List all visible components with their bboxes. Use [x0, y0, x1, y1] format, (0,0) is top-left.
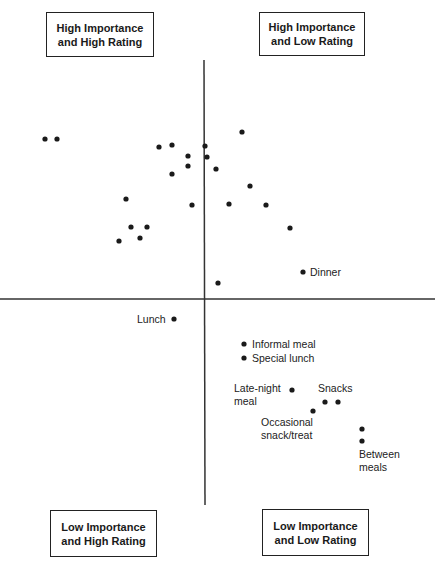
data-points [42, 129, 364, 443]
data-point [213, 166, 218, 171]
label-late-night: Late-night [234, 382, 281, 394]
data-point [189, 202, 194, 207]
data-point [204, 154, 209, 159]
data-point [169, 171, 174, 176]
data-point [42, 136, 47, 141]
label-snack-treat: snack/treat [261, 429, 312, 441]
data-point [202, 143, 207, 148]
label-lunch: Lunch [137, 313, 166, 325]
scatter-plot: Dinner Lunch Informal meal Special lunch… [0, 0, 435, 572]
data-point [215, 280, 220, 285]
data-point [156, 144, 161, 149]
data-point [289, 387, 294, 392]
label-informal-meal: Informal meal [252, 338, 316, 350]
data-point [310, 408, 315, 413]
data-point [359, 426, 364, 431]
data-point [144, 224, 149, 229]
label-late-night-meal: meal [234, 395, 257, 407]
data-point [54, 136, 59, 141]
data-point [226, 201, 231, 206]
data-point [247, 183, 252, 188]
data-point [128, 224, 133, 229]
data-point [137, 235, 142, 240]
data-point [241, 355, 246, 360]
data-point [300, 269, 305, 274]
data-point [185, 153, 190, 158]
data-point [359, 438, 364, 443]
label-dinner: Dinner [310, 266, 341, 278]
data-point [239, 129, 244, 134]
label-meals: meals [359, 461, 387, 473]
label-snacks: Snacks [318, 382, 352, 394]
label-special-lunch: Special lunch [252, 352, 315, 364]
data-point [241, 341, 246, 346]
data-point [171, 316, 176, 321]
data-point [287, 225, 292, 230]
data-point [116, 238, 121, 243]
vertical-axis [204, 60, 205, 505]
label-between: Between [359, 448, 400, 460]
data-point [123, 196, 128, 201]
label-occasional: Occasional [261, 416, 313, 428]
data-point [185, 163, 190, 168]
data-point [322, 399, 327, 404]
data-point [263, 202, 268, 207]
data-point [169, 142, 174, 147]
data-point [335, 399, 340, 404]
